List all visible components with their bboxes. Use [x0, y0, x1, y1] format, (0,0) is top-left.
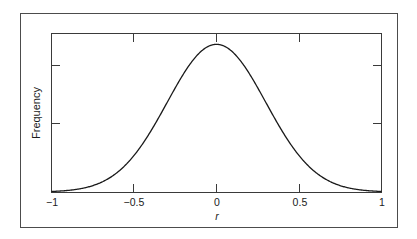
x-tick-label-0point5: 0.5: [284, 196, 316, 208]
x-tick-label-neg0point5: −0.5: [118, 196, 150, 208]
plot-drawing-area: [51, 33, 382, 193]
distribution-curve: [52, 44, 381, 191]
x-axis-title: r: [197, 210, 237, 222]
figure-container: −1 −0.5 0 0.5 1 r Frequency: [0, 0, 417, 239]
right-axis-ticks: [373, 65, 381, 123]
x-tick-label-zero: 0: [207, 196, 227, 208]
x-axis-ticks: [134, 184, 300, 192]
y-axis-title: Frequency: [30, 63, 42, 163]
x-tick-label-neg1: −1: [42, 196, 62, 208]
y-axis-ticks: [52, 65, 60, 123]
x-tick-label-one: 1: [372, 196, 392, 208]
top-axis-ticks: [134, 34, 300, 42]
